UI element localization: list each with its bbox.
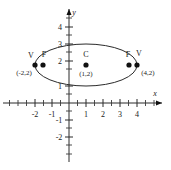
y-tick-label-neg2: -2 bbox=[56, 133, 63, 142]
vertex-left-dot bbox=[32, 62, 37, 67]
y-tick-label-1: 1 bbox=[58, 82, 62, 91]
vertex-right-dot bbox=[134, 62, 139, 67]
x-tick-label-neg2: -2 bbox=[32, 110, 39, 119]
center-letter: C bbox=[83, 50, 88, 59]
focus-right-letter: F bbox=[126, 50, 131, 59]
x-tick-label-3: 3 bbox=[118, 110, 122, 119]
y-tick-label-4: 4 bbox=[58, 23, 62, 32]
x-tick-label-neg1: -1 bbox=[49, 110, 56, 119]
y-tick-label-2: 2 bbox=[58, 57, 62, 66]
focus-left-dot bbox=[40, 62, 45, 67]
focus-left-letter: F bbox=[42, 50, 47, 59]
x-axis-label: x bbox=[152, 89, 157, 98]
center-dot bbox=[83, 62, 88, 67]
y-tick-label-neg1: -1 bbox=[56, 116, 63, 125]
center-coord: (1,2) bbox=[79, 70, 93, 78]
coordinate-plane: x y -2 -1 1 2 3 4 4 3 2 1 -1 -2 V F C F … bbox=[0, 0, 171, 170]
vertex-right-coord: (4,2) bbox=[141, 69, 155, 77]
y-axis-label: y bbox=[71, 8, 76, 17]
focus-right-dot bbox=[126, 62, 131, 67]
x-tick-label-4: 4 bbox=[135, 110, 139, 119]
ellipse-figure: x y -2 -1 1 2 3 4 4 3 2 1 -1 -2 V F C F … bbox=[0, 0, 171, 170]
x-tick-label-2: 2 bbox=[101, 110, 105, 119]
vertex-right-letter: V bbox=[136, 49, 142, 58]
x-axis-arrow bbox=[156, 101, 162, 106]
x-tick-label-1: 1 bbox=[84, 110, 88, 119]
y-tick-label-3: 3 bbox=[58, 40, 62, 49]
y-axis-arrow bbox=[67, 9, 72, 15]
vertex-left-letter: V bbox=[28, 51, 34, 60]
vertex-left-coord: (-2,2) bbox=[16, 69, 32, 77]
